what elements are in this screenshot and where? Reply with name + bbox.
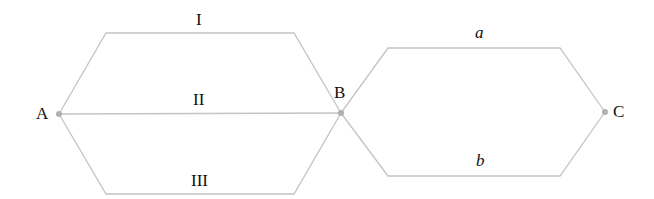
node-C: [602, 109, 608, 115]
node-B: [338, 110, 344, 116]
path-diagram: [0, 0, 654, 199]
path-II: [59, 113, 341, 114]
node-label-A: A: [36, 105, 48, 122]
path-label-II: II: [193, 91, 204, 108]
path-label-a: a: [475, 24, 484, 41]
path-a: [341, 48, 605, 113]
node-label-B: B: [334, 84, 345, 101]
node-A: [56, 111, 62, 117]
path-label-b: b: [476, 152, 485, 169]
path-b: [341, 112, 605, 176]
node-label-C: C: [613, 103, 624, 120]
path-label-I: I: [196, 11, 202, 28]
path-label-III: III: [191, 172, 208, 189]
